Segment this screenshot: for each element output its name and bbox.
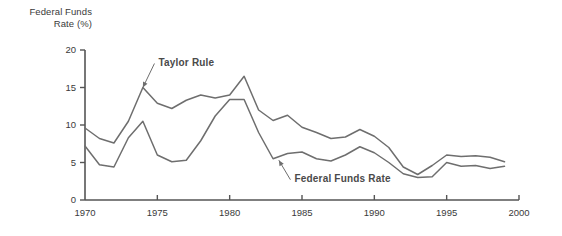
x-tick-label: 1970 xyxy=(65,208,105,218)
series-line-taylor-rule xyxy=(85,76,505,174)
data-series-group xyxy=(85,76,505,177)
chart-figure: Federal Funds Rate (%) 05101520 19701975… xyxy=(0,0,562,236)
x-tick-label: 1995 xyxy=(427,208,467,218)
x-tick-label: 1975 xyxy=(137,208,177,218)
y-tick-label: 20 xyxy=(52,45,76,55)
x-tick-label: 1980 xyxy=(210,208,250,218)
chart-plot-area xyxy=(0,0,562,236)
series-line-federal-funds-rate xyxy=(85,100,505,178)
x-tick-label: 1990 xyxy=(354,208,394,218)
x-tick-label: 2000 xyxy=(499,208,539,218)
x-tick-label: 1985 xyxy=(282,208,322,218)
y-tick-label: 5 xyxy=(52,158,76,168)
annotation-label-taylor-rule: Taylor Rule xyxy=(158,57,214,68)
y-tick-label: 10 xyxy=(52,120,76,130)
annotation-label-federal-funds-rate: Federal Funds Rate xyxy=(294,173,390,184)
y-tick-label: 0 xyxy=(52,195,76,205)
annotation-leader-lines xyxy=(143,64,291,180)
y-tick-label: 15 xyxy=(52,83,76,93)
